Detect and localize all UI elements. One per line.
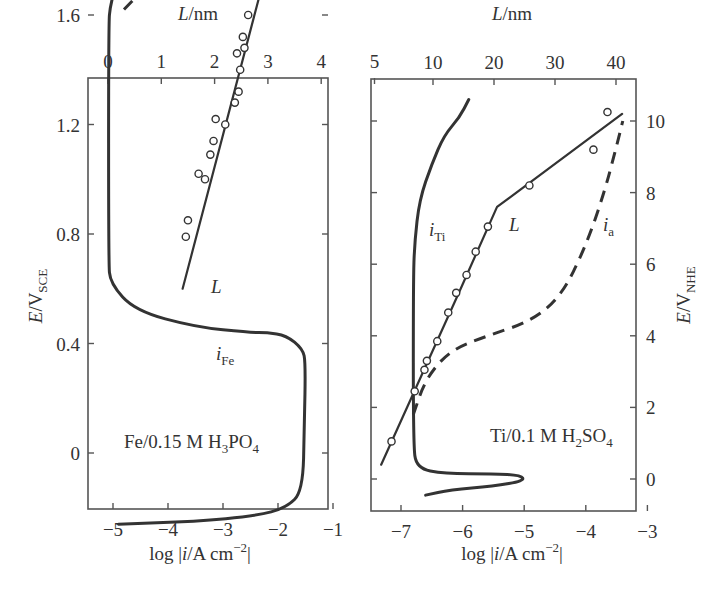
y-tick-label: 0.8 [56, 224, 80, 245]
y-tick-label: 6 [646, 254, 656, 275]
data-point-marker [184, 217, 191, 224]
y-tick-label: 0 [646, 469, 656, 490]
data-point-marker [388, 438, 395, 445]
top-tick-label: 5 [370, 51, 380, 72]
data-point-marker [207, 151, 214, 158]
data-point-marker [239, 33, 246, 40]
right-electrolyte-annotation: Ti/0.1 M H2SO4 [490, 425, 613, 450]
right-plot-frame [371, 79, 636, 511]
x-tick-label: −3 [213, 519, 233, 540]
left-ticks: −5−4−3−2−101234500.40.81.21.6 [56, 5, 379, 540]
data-point-marker [445, 309, 452, 316]
x-tick-label: −5 [514, 521, 534, 542]
left-electrolyte-annotation: Fe/0.15 M H3PO4 [124, 431, 259, 456]
x-tick-label: −2 [268, 519, 288, 540]
data-point-marker [421, 366, 428, 373]
top-tick-label: 3 [263, 51, 273, 72]
right-L-label: L [508, 214, 520, 235]
y-tick-label: 1.2 [56, 115, 80, 136]
data-point-marker [241, 44, 248, 51]
data-point-marker [453, 289, 460, 296]
series-l [183, 0, 266, 289]
y-tick-label: 1.6 [56, 5, 80, 26]
chart-canvas: −5−4−3−2−101234500.40.81.21.6 L/nm log |… [0, 0, 724, 594]
data-point-marker [411, 388, 418, 395]
top-tick-label: 4 [316, 51, 326, 72]
y-tick-label: 10 [646, 111, 665, 132]
y-tick-label: 8 [646, 183, 656, 204]
x-tick-label: −5 [103, 519, 123, 540]
series-l [381, 114, 622, 465]
left-y-axis-title: E/VSCE [25, 269, 50, 325]
data-point-marker [423, 357, 430, 364]
left-top-axis-title: L/nm [177, 3, 218, 24]
y-tick-label: 0.4 [56, 334, 80, 355]
top-tick-label: 40 [607, 52, 626, 73]
right-ticks: −7−6−5−4−3102030400246810 [371, 52, 665, 542]
top-tick-label: 30 [546, 52, 565, 73]
data-point-marker [195, 170, 202, 177]
y-tick-label: 4 [646, 326, 656, 347]
top-tick-label: 1 [157, 51, 167, 72]
left-iFe-label: iFe [216, 343, 235, 368]
data-point-marker [484, 223, 491, 230]
data-point-marker [604, 108, 611, 115]
data-point-marker [245, 11, 252, 18]
left-panel: −5−4−3−2−101234500.40.81.21.6 L/nm log |… [25, 0, 379, 564]
top-tick-label: 10 [424, 52, 443, 73]
data-point-marker [182, 233, 189, 240]
data-point-marker [212, 115, 219, 122]
data-point-marker [233, 50, 240, 57]
data-point-marker [235, 88, 242, 95]
x-tick-label: −6 [452, 521, 472, 542]
x-tick-label: −7 [391, 521, 411, 542]
data-point-marker [231, 99, 238, 106]
x-tick-label: −1 [323, 519, 343, 540]
top-tick-label: 2 [210, 51, 220, 72]
data-point-marker [472, 248, 479, 255]
data-point-marker [237, 66, 244, 73]
data-point-marker [222, 121, 229, 128]
data-point-marker [201, 176, 208, 183]
x-tick-label: −4 [576, 521, 597, 542]
y-tick-label: 2 [646, 397, 656, 418]
right-x-axis-title: log |i/A cm−2| [461, 540, 563, 564]
y-tick-label: 0 [71, 443, 81, 464]
right-ia-label: ia [603, 214, 614, 239]
right-top-axis-title: L/nm [491, 3, 532, 24]
data-point-marker [526, 182, 533, 189]
data-point-marker [434, 338, 441, 345]
left-x-axis-title: log |i/A cm−2| [149, 540, 251, 564]
right-panel: −7−6−5−4−3102030400246810 L/nm log |i/A … [371, 3, 698, 564]
top-tick-label: 20 [485, 52, 504, 73]
data-point-marker [463, 271, 470, 278]
left-L-label: L [210, 276, 222, 297]
x-tick-label: −3 [637, 521, 657, 542]
series-i-a [413, 121, 622, 415]
right-iTi-label: iTi [429, 219, 446, 244]
data-point-marker [210, 137, 217, 144]
right-y-axis-title: E/VNHE [673, 266, 698, 324]
data-point-marker [590, 146, 597, 153]
